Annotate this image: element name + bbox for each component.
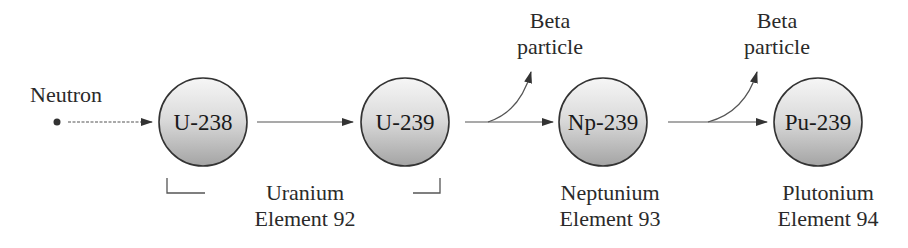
element-label-neptunium: Neptunium Element 93 — [540, 180, 680, 232]
node-u238: U-238 — [159, 78, 247, 166]
node-label-u238: U-238 — [174, 110, 233, 135]
beta-label-1: Beta particle — [495, 8, 605, 60]
beta-arrow-1 — [488, 72, 531, 122]
element-label-uranium: Uranium Element 92 — [235, 180, 375, 232]
bracket-right — [413, 178, 440, 193]
element-name-plutonium: Plutonium — [758, 180, 898, 206]
neutron-dot — [54, 119, 61, 126]
node-u239: U-239 — [361, 78, 449, 166]
beta-label-1-line2: particle — [495, 34, 605, 60]
node-label-np239: Np-239 — [568, 110, 638, 135]
node-label-u239: U-239 — [376, 110, 435, 135]
element-number-uranium: Element 92 — [235, 206, 375, 232]
element-name-neptunium: Neptunium — [540, 180, 680, 206]
beta-label-2-line1: Beta — [722, 8, 832, 34]
beta-label-2-line2: particle — [722, 34, 832, 60]
bracket-left — [167, 178, 205, 193]
beta-label-1-line1: Beta — [495, 8, 605, 34]
element-number-plutonium: Element 94 — [758, 206, 898, 232]
node-label-pu239: Pu-239 — [785, 110, 851, 135]
element-label-plutonium: Plutonium Element 94 — [758, 180, 898, 232]
element-number-neptunium: Element 93 — [540, 206, 680, 232]
node-pu239: Pu-239 — [774, 78, 862, 166]
beta-arrow-2 — [708, 72, 757, 122]
element-name-uranium: Uranium — [235, 180, 375, 206]
node-np239: Np-239 — [559, 78, 647, 166]
neutron-label: Neutron — [30, 82, 102, 108]
beta-label-2: Beta particle — [722, 8, 832, 60]
